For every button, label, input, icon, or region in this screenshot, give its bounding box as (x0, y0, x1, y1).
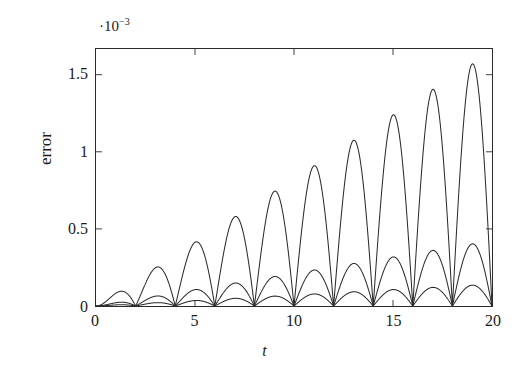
y-axis-multiplier-exponent: −3 (119, 16, 130, 27)
y-axis-tick-label: 1.5 (68, 66, 88, 82)
x-axis-title: t (0, 343, 529, 359)
y-axis-tick-label: 0 (80, 299, 88, 315)
data-curve-curve-1 (96, 64, 492, 306)
x-axis-tick-label: 20 (485, 313, 501, 329)
x-axis-tick-label: 5 (191, 313, 199, 329)
x-axis-tick-label: 10 (286, 313, 302, 329)
x-axis-tick-labels: 05101520 (95, 313, 493, 335)
data-curve-curve-2 (96, 244, 492, 306)
y-axis-tick-label: 0.5 (68, 221, 88, 237)
curves-svg (96, 49, 492, 306)
y-axis-multiplier-label: ·10−3 (99, 17, 130, 34)
x-axis-tick-label: 15 (386, 313, 402, 329)
y-axis-multiplier-mantissa: ·10 (99, 18, 119, 34)
y-axis-title: error (37, 99, 54, 199)
y-axis-tick-label: 1 (80, 144, 88, 160)
error-plot-figure: ·10−3 00.511.5 05101520 error t (0, 0, 529, 373)
plot-area (95, 48, 493, 307)
x-axis-tick-label: 0 (91, 313, 99, 329)
